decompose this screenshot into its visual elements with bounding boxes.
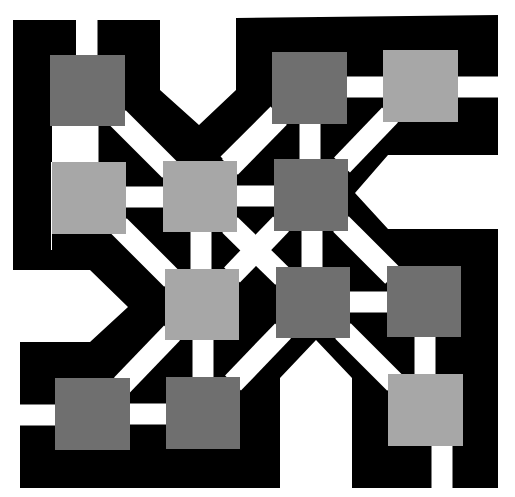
frame-left-column <box>13 20 51 270</box>
node-r4c4 <box>388 374 463 446</box>
node-r1c3 <box>272 52 347 124</box>
node-r1c1 <box>50 55 125 126</box>
node-r4c2 <box>166 377 240 449</box>
node-r4c1 <box>55 378 130 450</box>
diagram-svg <box>0 0 515 497</box>
network-diagram <box>0 0 515 497</box>
node-r3c3 <box>276 267 350 338</box>
node-r2c1 <box>52 162 126 234</box>
node-r1c4 <box>383 50 458 122</box>
node-r2c3 <box>274 159 348 231</box>
node-r2c2 <box>163 161 237 232</box>
node-r3c2 <box>165 269 239 340</box>
node-r3c4 <box>387 266 461 337</box>
